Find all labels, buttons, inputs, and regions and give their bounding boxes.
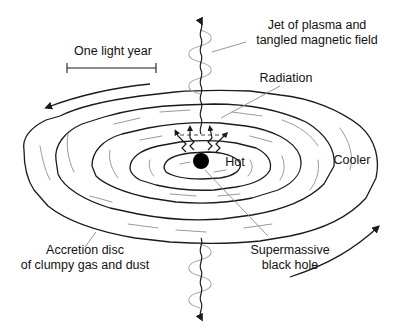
bh-label-line2: black hole (245, 258, 335, 273)
cooler-label: Cooler (330, 153, 374, 168)
disc-label-line1: Accretion disc (20, 243, 150, 258)
hot-label: Hot (220, 155, 250, 170)
jet-label: Jet of plasma and tangled magnetic field (252, 18, 382, 48)
black-hole-label: Supermassive black hole (245, 243, 335, 273)
scale-label: One light year (68, 44, 158, 59)
plasma-jet (189, 22, 212, 318)
jet-label-line2: tangled magnetic field (252, 33, 382, 48)
disc-label-line2: of clumpy gas and dust (20, 258, 150, 273)
black-hole-icon (193, 153, 209, 169)
accretion-disc-label: Accretion disc of clumpy gas and dust (20, 243, 150, 273)
radiation-label: Radiation (256, 71, 316, 86)
bh-label-line1: Supermassive (245, 243, 335, 258)
scale-bar (67, 63, 156, 73)
jet-label-line1: Jet of plasma and (252, 18, 382, 33)
leader-jet (212, 42, 246, 52)
